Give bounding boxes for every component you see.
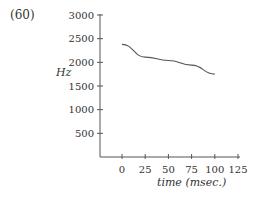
- x-tick-label: 50: [162, 164, 175, 175]
- y-tick-label: 2000: [69, 57, 94, 68]
- y-tick-label: 1000: [69, 104, 94, 115]
- x-tick-label: 125: [228, 164, 247, 175]
- y-tick-label: 1500: [69, 81, 94, 92]
- series-line: [122, 44, 215, 74]
- x-tick-label: 100: [205, 164, 224, 175]
- x-tick-label: 25: [139, 164, 152, 175]
- x-tick-label: 0: [119, 164, 125, 175]
- line-chart: 500100015002000250030000255075100125: [0, 0, 256, 197]
- x-tick-label: 75: [185, 164, 198, 175]
- y-tick-label: 3000: [69, 10, 94, 21]
- y-tick-label: 2500: [69, 33, 94, 44]
- y-tick-label: 500: [75, 128, 94, 139]
